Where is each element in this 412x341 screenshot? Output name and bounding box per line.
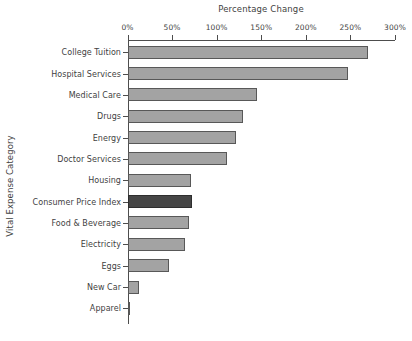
x-tick: [217, 35, 218, 40]
bar-food-beverage[interactable]: [128, 216, 190, 229]
x-tick-label: 300%: [384, 23, 406, 32]
y-tick-label-apparel: Apparel: [8, 304, 121, 313]
y-tick-label-consumer-price-index: Consumer Price Index: [8, 197, 121, 206]
y-tick-label-drugs: Drugs: [8, 112, 121, 121]
x-tick: [261, 35, 262, 40]
x-tick-label: 100%: [206, 23, 228, 32]
bar-electricity[interactable]: [128, 238, 185, 251]
x-tick-label: 200%: [295, 23, 317, 32]
bar-medical-care[interactable]: [128, 88, 257, 101]
bar-energy[interactable]: [128, 131, 237, 144]
y-tick-label-food-beverage: Food & Beverage: [8, 218, 121, 227]
y-tick-label-medical-care: Medical Care: [8, 90, 121, 99]
bar-doctor-services[interactable]: [128, 152, 228, 165]
x-tick-label: 150%: [250, 23, 272, 32]
y-tick-label-doctor-services: Doctor Services: [8, 154, 121, 163]
x-tick: [395, 35, 396, 40]
bar-chart: Percentage Change Vital Expense Category…: [0, 0, 412, 341]
y-tick-label-housing: Housing: [8, 176, 121, 185]
y-tick-label-new-car: New Car: [8, 283, 121, 292]
y-tick-label-eggs: Eggs: [8, 261, 121, 270]
bar-college-tuition[interactable]: [128, 46, 369, 59]
x-tick: [350, 35, 351, 40]
bar-housing[interactable]: [128, 174, 191, 187]
bar-consumer-price-index[interactable]: [128, 195, 192, 208]
y-tick-label-energy: Energy: [8, 133, 121, 142]
x-tick-label: 0%: [121, 23, 133, 32]
y-tick-label-college-tuition: College Tuition: [8, 48, 121, 57]
x-tick-label: 250%: [339, 23, 361, 32]
bar-new-car[interactable]: [128, 281, 140, 294]
x-axis-line: [128, 40, 396, 41]
bar-eggs[interactable]: [128, 259, 170, 272]
bar-drugs[interactable]: [128, 110, 244, 123]
x-tick-label: 50%: [164, 23, 181, 32]
y-tick-label-electricity: Electricity: [8, 240, 121, 249]
x-tick: [306, 35, 307, 40]
y-tick-label-hospital-services: Hospital Services: [8, 69, 121, 78]
x-tick: [172, 35, 173, 40]
chart-title: Percentage Change: [127, 4, 395, 14]
x-axis: 0%50%100%150%200%250%300%: [128, 40, 396, 41]
bar-hospital-services[interactable]: [128, 67, 348, 80]
bar-apparel[interactable]: [128, 302, 130, 315]
